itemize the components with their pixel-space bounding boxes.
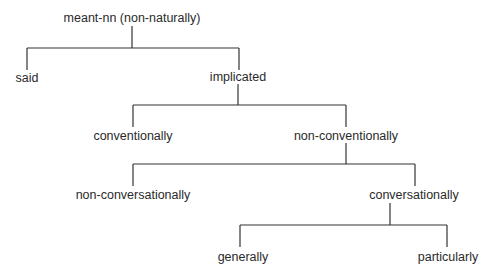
node-particularly: particularly: [418, 250, 478, 264]
node-said: said: [16, 71, 39, 85]
node-non-conventionally: non-conventionally: [294, 129, 398, 143]
node-implicated: implicated: [210, 70, 266, 84]
node-non-conversationally: non-conversationally: [76, 188, 191, 202]
node-meant-nn: meant-nn (non-naturally): [64, 11, 201, 25]
tree-connectors: [0, 0, 491, 278]
node-conventionally: conventionally: [93, 129, 172, 143]
node-conversationally: conversationally: [369, 188, 459, 202]
node-generally: generally: [218, 250, 269, 264]
